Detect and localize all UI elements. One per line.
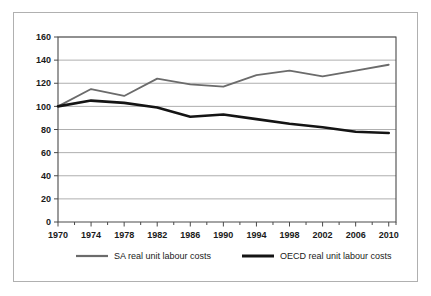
x-tick-label: 1978: [114, 230, 134, 240]
legend-label-sa: SA real unit labour costs: [114, 251, 212, 261]
legend-label-oecd: OECD real unit labour costs: [280, 251, 392, 261]
y-axis-tick-labels: 020406080100120140160: [36, 32, 51, 227]
y-tick-label: 160: [36, 32, 51, 42]
x-axis-tick-marks: [58, 222, 396, 227]
series-line-sa: [58, 65, 389, 107]
x-tick-label: 2006: [346, 230, 366, 240]
chart-legend: SA real unit labour costsOECD real unit …: [76, 251, 392, 261]
y-tick-label: 0: [46, 217, 51, 227]
y-tick-label: 140: [36, 55, 51, 65]
series-line-oecd: [58, 101, 389, 133]
x-axis-tick-labels: 1970197419781982198619901994199820022006…: [48, 230, 399, 240]
y-tick-label: 20: [41, 194, 51, 204]
gridlines: [58, 37, 396, 199]
y-tick-label: 40: [41, 171, 51, 181]
x-tick-label: 2010: [379, 230, 399, 240]
x-tick-label: 1986: [180, 230, 200, 240]
x-tick-label: 1990: [213, 230, 233, 240]
x-tick-label: 1982: [147, 230, 167, 240]
y-axis-tick-marks: [54, 37, 58, 222]
y-tick-label: 80: [41, 125, 51, 135]
y-tick-label: 60: [41, 148, 51, 158]
x-tick-label: 1994: [246, 230, 266, 240]
chart-figure-frame: 020406080100120140160 197019741978198219…: [13, 12, 418, 282]
line-chart: 020406080100120140160 197019741978198219…: [14, 13, 417, 281]
x-tick-label: 1970: [48, 230, 68, 240]
x-tick-label: 2002: [313, 230, 333, 240]
y-tick-label: 100: [36, 102, 51, 112]
y-tick-label: 120: [36, 78, 51, 88]
x-tick-label: 1998: [279, 230, 299, 240]
x-tick-label: 1974: [81, 230, 101, 240]
data-series: [58, 65, 389, 133]
